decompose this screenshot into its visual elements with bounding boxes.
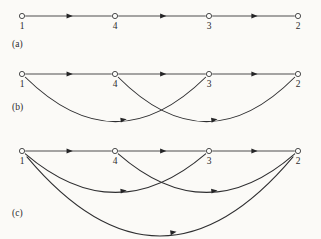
- edge-path: [27, 157, 293, 236]
- node-label: 3: [207, 156, 212, 166]
- edge-3-to-2: [213, 149, 295, 154]
- edge-arrowhead: [251, 149, 257, 154]
- node-circle[interactable]: [206, 148, 211, 153]
- edge-arrowhead: [211, 118, 217, 123]
- panel-a: 1432: [19, 13, 300, 31]
- node-circle[interactable]: [295, 71, 300, 76]
- node-label: 2: [296, 156, 301, 166]
- node-label: 3: [207, 79, 212, 89]
- node-circle[interactable]: [19, 148, 24, 153]
- node-circle[interactable]: [112, 13, 117, 18]
- node-circle[interactable]: [295, 13, 300, 18]
- edge-4-to-3: [119, 72, 206, 77]
- node-circle[interactable]: [112, 148, 117, 153]
- node-label: 4: [113, 79, 118, 89]
- node-circle[interactable]: [19, 13, 24, 18]
- node-label: 2: [296, 21, 301, 31]
- node-label: 1: [20, 156, 25, 166]
- edge-1-to-4: [26, 14, 112, 19]
- edge-arrowhead: [160, 72, 166, 77]
- node-3[interactable]: 3: [206, 71, 211, 89]
- edge-arrowhead: [67, 72, 73, 77]
- node-label: 3: [207, 21, 212, 31]
- node-4[interactable]: 4: [112, 13, 117, 31]
- node-label: 2: [296, 79, 301, 89]
- edge-arrowhead: [251, 72, 257, 77]
- labels-layer: (a)(b)(c): [12, 39, 23, 219]
- edge-arrowhead: [160, 14, 166, 19]
- node-circle[interactable]: [295, 148, 300, 153]
- edge-arrowhead: [160, 149, 166, 154]
- node-2[interactable]: 2: [295, 71, 300, 89]
- node-4[interactable]: 4: [112, 148, 117, 166]
- node-1[interactable]: 1: [19, 13, 24, 31]
- graph-figure: 143214321432 (a)(b)(c): [0, 0, 321, 239]
- node-circle[interactable]: [206, 71, 211, 76]
- panel-c: 1432: [19, 148, 300, 236]
- node-circle[interactable]: [112, 71, 117, 76]
- node-3[interactable]: 3: [206, 13, 211, 31]
- node-label: 1: [20, 21, 25, 31]
- edge-arrowhead: [67, 149, 73, 154]
- edge-1-to-2: [27, 157, 293, 236]
- edge-arrowhead: [120, 189, 126, 194]
- node-3[interactable]: 3: [206, 148, 211, 166]
- edge-arrowhead: [251, 14, 257, 19]
- panel-caption-c: (c): [12, 208, 23, 219]
- node-circle[interactable]: [19, 71, 24, 76]
- edge-1-to-4: [26, 72, 112, 77]
- node-1[interactable]: 1: [19, 71, 24, 89]
- edge-3-to-2: [213, 72, 295, 77]
- panel-caption-a: (a): [12, 39, 23, 50]
- edge-arrowhead: [211, 189, 217, 194]
- node-2[interactable]: 2: [295, 148, 300, 166]
- node-circle[interactable]: [206, 13, 211, 18]
- node-label: 1: [20, 79, 25, 89]
- panel-b: 1432: [19, 71, 300, 122]
- panels-layer: 143214321432: [19, 13, 300, 236]
- edge-3-to-2: [213, 14, 295, 19]
- node-1[interactable]: 1: [19, 148, 24, 166]
- node-label: 4: [113, 156, 118, 166]
- panel-caption-b: (b): [12, 102, 23, 113]
- node-label: 4: [113, 21, 118, 31]
- node-2[interactable]: 2: [295, 13, 300, 31]
- node-4[interactable]: 4: [112, 71, 117, 89]
- edge-1-to-4: [26, 149, 112, 154]
- edge-4-to-3: [119, 149, 206, 154]
- edge-arrowhead: [67, 14, 73, 19]
- edge-4-to-3: [119, 14, 206, 19]
- edge-arrowhead: [120, 118, 126, 123]
